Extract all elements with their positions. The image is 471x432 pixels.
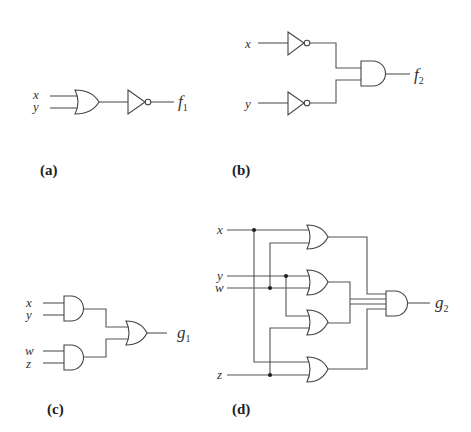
or-gate-3-icon xyxy=(307,310,328,335)
input-label-x: x xyxy=(244,36,251,51)
or-gate-2-icon xyxy=(307,270,328,295)
wire-noty-to-and xyxy=(310,80,361,103)
not-gate-bottom-icon xyxy=(288,92,304,115)
not-gate-icon xyxy=(128,90,145,114)
input-label-w: w xyxy=(215,280,224,295)
and-gate-final-icon xyxy=(386,291,407,316)
wire-or4-to-and xyxy=(328,309,387,369)
or-gate-1-icon xyxy=(307,225,328,249)
inversion-bubble-icon xyxy=(304,100,310,106)
wire-or1-to-and xyxy=(328,237,387,294)
input-label-y: y xyxy=(24,307,32,322)
inversion-bubble-icon xyxy=(304,40,310,46)
junction-dot-icon xyxy=(284,274,288,278)
caption-d: (d) xyxy=(232,401,250,418)
logic-circuit-figure: x y f1 (a) x y f2 (b) x y w z xyxy=(0,0,471,432)
junction-dot-icon xyxy=(268,373,272,377)
caption-a: (a) xyxy=(40,162,58,179)
junction-dot-icon xyxy=(268,286,272,290)
junction-dot-icon xyxy=(252,228,256,232)
output-label-f1: f1 xyxy=(178,92,188,113)
input-label-z: z xyxy=(25,356,31,371)
and-gate-top-icon xyxy=(64,296,84,321)
not-gate-top-icon xyxy=(288,32,304,55)
input-label-z: z xyxy=(216,367,222,382)
and-gate-icon xyxy=(361,61,385,86)
panel-a: x y f1 (a) xyxy=(31,87,188,179)
inversion-bubble-icon xyxy=(145,99,151,105)
or-gate-4-icon xyxy=(307,357,328,382)
panel-d: x y w z g2 (d) xyxy=(215,222,449,418)
wire-w-branch-up xyxy=(270,243,310,288)
and-gate-bottom-icon xyxy=(64,345,84,370)
input-label-y: y xyxy=(243,96,251,111)
wire-and1-to-or xyxy=(83,309,130,327)
panel-c: x y w z g1 (c) xyxy=(24,295,191,418)
wire-notx-to-and xyxy=(310,43,361,68)
wire-x-branch xyxy=(254,230,310,362)
or-gate-icon xyxy=(126,321,147,345)
caption-b: (b) xyxy=(232,162,250,179)
caption-c: (c) xyxy=(47,401,64,418)
output-label-f2: f2 xyxy=(414,65,424,86)
wire-z-branch xyxy=(270,328,310,375)
output-label-g1: g1 xyxy=(177,323,191,344)
wire-and2-to-or xyxy=(83,339,130,357)
or-gate-icon xyxy=(75,90,99,114)
input-label-x: x xyxy=(216,222,223,237)
panel-b: x y f2 (b) xyxy=(232,32,424,179)
wire-or2-or3-join xyxy=(328,282,350,323)
output-label-g2: g2 xyxy=(435,293,449,314)
input-label-y: y xyxy=(31,99,39,114)
